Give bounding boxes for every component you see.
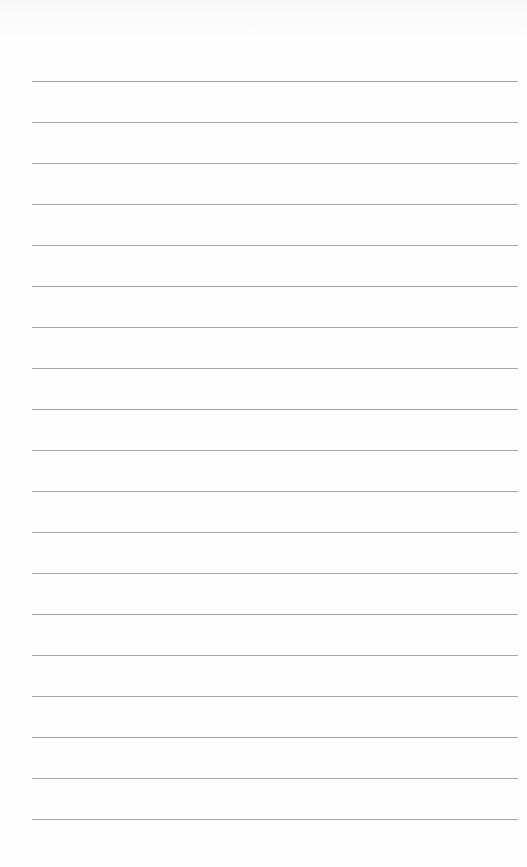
ruled-line <box>32 327 518 328</box>
ruled-line <box>32 409 518 410</box>
ruled-line <box>32 286 518 287</box>
ruled-line <box>32 532 518 533</box>
ruled-line <box>32 696 518 697</box>
ruled-line <box>32 368 518 369</box>
ruled-line <box>32 655 518 656</box>
ruled-line <box>32 204 518 205</box>
ruled-line <box>32 614 518 615</box>
ruled-line <box>32 778 518 779</box>
ruled-line <box>32 573 518 574</box>
ruled-line <box>32 491 518 492</box>
ruled-line <box>32 819 518 820</box>
ruled-line <box>32 737 518 738</box>
ruled-line <box>32 122 518 123</box>
ruled-line <box>32 450 518 451</box>
lined-paper-page <box>0 0 527 867</box>
ruled-line <box>32 163 518 164</box>
ruled-line <box>32 245 518 246</box>
paper-bleed-through <box>0 0 527 40</box>
ruled-line <box>32 81 518 82</box>
